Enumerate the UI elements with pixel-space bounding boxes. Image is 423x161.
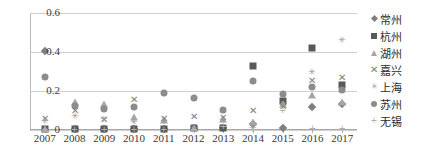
legend-item-无锡[interactable]: +无锡 (368, 112, 423, 129)
data-point (131, 103, 138, 110)
legend-item-苏州[interactable]: 苏州 (368, 95, 423, 112)
data-point: ✳ (338, 36, 346, 45)
legend-marker-plus-icon: + (368, 116, 380, 126)
data-point (220, 106, 227, 113)
data-point (338, 98, 346, 105)
data-point (249, 78, 256, 85)
legend-item-湖州[interactable]: 湖州 (368, 44, 423, 61)
legend-item-杭州[interactable]: 杭州 (368, 27, 423, 44)
chart-legend: 常州杭州湖州✕嘉兴✳上海苏州+无锡 (368, 10, 423, 129)
legend-marker-diamond-icon (368, 16, 380, 21)
legend-label: 无锡 (380, 113, 402, 129)
legend-label: 苏州 (380, 96, 402, 112)
data-point (309, 45, 316, 52)
y-axis-line (30, 13, 31, 130)
legend-label: 湖州 (380, 45, 402, 61)
legend-item-上海[interactable]: ✳上海 (368, 78, 423, 95)
legend-marker-square-icon (368, 33, 380, 39)
legend-item-嘉兴[interactable]: ✕嘉兴 (368, 61, 423, 78)
data-point (71, 102, 78, 109)
data-point: ✕ (249, 106, 257, 116)
data-point (308, 91, 316, 98)
legend-marker-star-icon: ✳ (368, 83, 380, 91)
y-axis-tick-label: 0.2 (34, 85, 60, 96)
legend-marker-x-icon: ✕ (368, 65, 380, 75)
data-point: + (220, 121, 226, 132)
x-axis-tick-label: 2017 (322, 133, 362, 144)
data-point (41, 74, 48, 81)
legend-marker-circle-icon (368, 101, 380, 107)
data-point: ✕ (190, 112, 198, 122)
data-point (309, 84, 316, 91)
legend-label: 杭州 (380, 28, 402, 44)
legend-label: 嘉兴 (380, 62, 402, 78)
gridline (30, 52, 357, 53)
legend-label: 常州 (380, 11, 402, 27)
data-point: + (279, 104, 285, 115)
data-point (101, 105, 108, 112)
legend-item-常州[interactable]: 常州 (368, 10, 423, 27)
legend-label: 上海 (380, 79, 402, 95)
data-point (160, 89, 167, 96)
data-point (339, 87, 346, 94)
data-point (308, 102, 316, 110)
y-axis-tick-label: 0.4 (34, 46, 60, 57)
data-point (279, 90, 286, 97)
y-axis-tick-label: 0.6 (34, 7, 60, 18)
data-point (190, 94, 197, 101)
plot-area: ✕✕✕✕✕✕✕✕✕✕✕✳✳✳✳✳✳✳✳✳✳✳+++++++++++ (30, 13, 357, 130)
scatter-chart: ✕✕✕✕✕✕✕✕✕✕✕✳✳✳✳✳✳✳✳✳✳✳+++++++++++ 00.20.… (0, 0, 423, 161)
data-point: ✳ (71, 112, 79, 121)
data-point: ✕ (338, 73, 346, 83)
data-point: ✳ (308, 68, 316, 77)
legend-marker-triangle-icon (368, 50, 380, 56)
data-point (249, 62, 256, 69)
gridline (30, 13, 357, 14)
